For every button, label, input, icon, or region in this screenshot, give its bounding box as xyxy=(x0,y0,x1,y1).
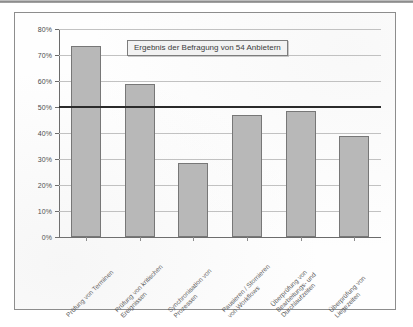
chart-frame: 0%10%20%30%40%50%60%70%80% Prüfung von T… xyxy=(14,12,396,310)
x-axis-label-2: Prüfung von kritischenEreignissen xyxy=(113,263,169,319)
gridline-30pct xyxy=(59,159,381,160)
y-tick-60pct xyxy=(55,81,59,82)
y-tick-30pct xyxy=(55,159,59,160)
bar-1 xyxy=(71,46,101,237)
gridline-80pct xyxy=(59,29,381,30)
bar-5 xyxy=(286,111,316,237)
bar-3 xyxy=(178,163,208,237)
x-axis-label-4: Pausieren / Stornierenvon Workflows xyxy=(220,263,276,319)
gridline-40pct xyxy=(59,133,381,134)
x-label-line: von Workflows xyxy=(225,268,276,319)
y-axis-label-40pct: 40% xyxy=(38,130,52,137)
y-axis-label-80pct: 80% xyxy=(38,26,52,33)
gridline-20pct xyxy=(59,185,381,186)
x-axis-label-6: Überprüfung vonLiegezeiten xyxy=(327,274,372,319)
x-label-line: Pausieren / Stornieren xyxy=(220,263,271,314)
x-axis-label-1: Prüfung von Terminen xyxy=(64,269,114,319)
x-label-line: Prüfung von Terminen xyxy=(64,269,114,319)
chart-title-box: Ergebnis der Befragung von 54 Anbietern xyxy=(127,40,288,56)
y-tick-70pct xyxy=(55,55,59,56)
x-label-line: Ereignissen xyxy=(118,268,169,319)
x-axis-label-3: Synchronisation vonProzessen xyxy=(166,267,218,319)
gridline-10pct xyxy=(59,211,381,212)
reference-line-50pct xyxy=(59,106,381,108)
y-tick-80pct xyxy=(55,29,59,30)
x-label-line: Synchronisation von xyxy=(166,267,213,314)
y-axis-label-50pct: 50% xyxy=(38,104,52,111)
x-axis-labels-group: Prüfung von TerminenPrüfung von kritisch… xyxy=(59,239,389,319)
plot-area: 0%10%20%30%40%50%60%70%80% xyxy=(59,29,381,237)
y-axis-label-0pct: 0% xyxy=(42,234,52,241)
y-axis-label-10pct: 10% xyxy=(38,208,52,215)
y-tick-20pct xyxy=(55,185,59,186)
y-tick-0pct xyxy=(55,237,59,238)
y-axis-label-30pct: 30% xyxy=(38,156,52,163)
y-axis-label-70pct: 70% xyxy=(38,52,52,59)
gridline-60pct xyxy=(59,81,381,82)
x-label-line: Prüfung von kritischen xyxy=(113,263,164,314)
gridline-0pct xyxy=(59,237,381,238)
scan-artifact-line xyxy=(0,1,413,3)
y-axis-label-20pct: 20% xyxy=(38,182,52,189)
y-tick-40pct xyxy=(55,133,59,134)
bar-6 xyxy=(339,136,369,237)
y-tick-10pct xyxy=(55,211,59,212)
y-axis-label-60pct: 60% xyxy=(38,78,52,85)
bar-4 xyxy=(232,115,262,237)
